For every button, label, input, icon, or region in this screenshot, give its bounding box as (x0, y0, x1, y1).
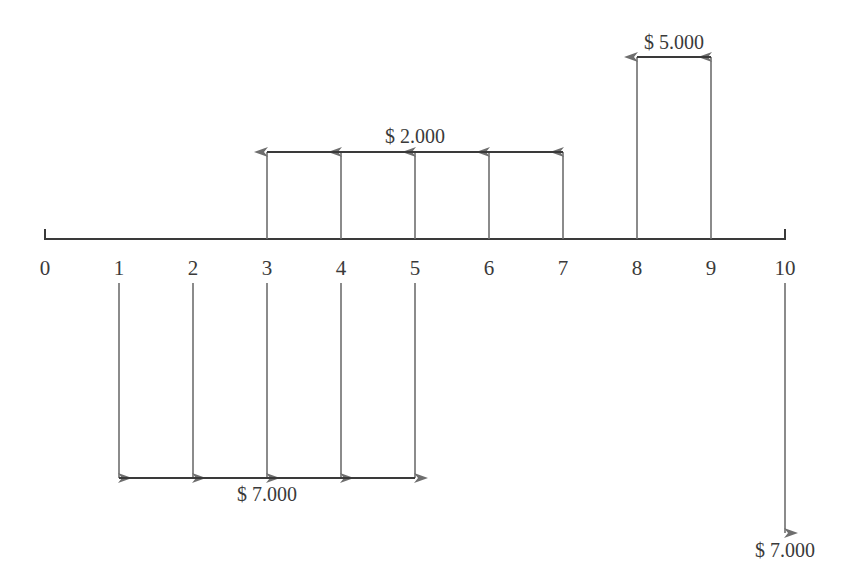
period-label-2: 2 (188, 256, 199, 280)
period-label-9: 9 (706, 256, 717, 280)
cash-flow-inflow-group-1: $ 5.000 (637, 31, 711, 239)
amount-label: $ 7.000 (755, 539, 815, 561)
period-labels: 012345678910 (40, 256, 796, 280)
period-label-3: 3 (262, 256, 273, 280)
period-label-7: 7 (558, 256, 569, 280)
amount-label: $ 2.000 (385, 125, 445, 147)
period-label-4: 4 (336, 256, 347, 280)
cash-flow-diagram-canvas: 012345678910 $ 2.000$ 5.000$ 7.000$ 7.00… (0, 0, 844, 563)
cash-flows: $ 2.000$ 5.000$ 7.000$ 7.000 (119, 31, 815, 561)
cash-flow-outflow-group-2: $ 7.000 (119, 283, 415, 505)
amount-label: $ 7.000 (237, 483, 297, 505)
cash-flow-diagram: 012345678910 $ 2.000$ 5.000$ 7.000$ 7.00… (0, 0, 844, 563)
period-label-6: 6 (484, 256, 495, 280)
period-label-1: 1 (114, 256, 125, 280)
amount-label: $ 5.000 (644, 31, 704, 53)
period-label-10: 10 (775, 256, 796, 280)
period-label-5: 5 (410, 256, 421, 280)
cash-flow-outflow-group-3: $ 7.000 (755, 283, 815, 561)
cash-flow-inflow-group-0: $ 2.000 (267, 125, 563, 239)
period-label-0: 0 (40, 256, 51, 280)
time-axis: 012345678910 (40, 229, 796, 280)
period-label-8: 8 (632, 256, 643, 280)
